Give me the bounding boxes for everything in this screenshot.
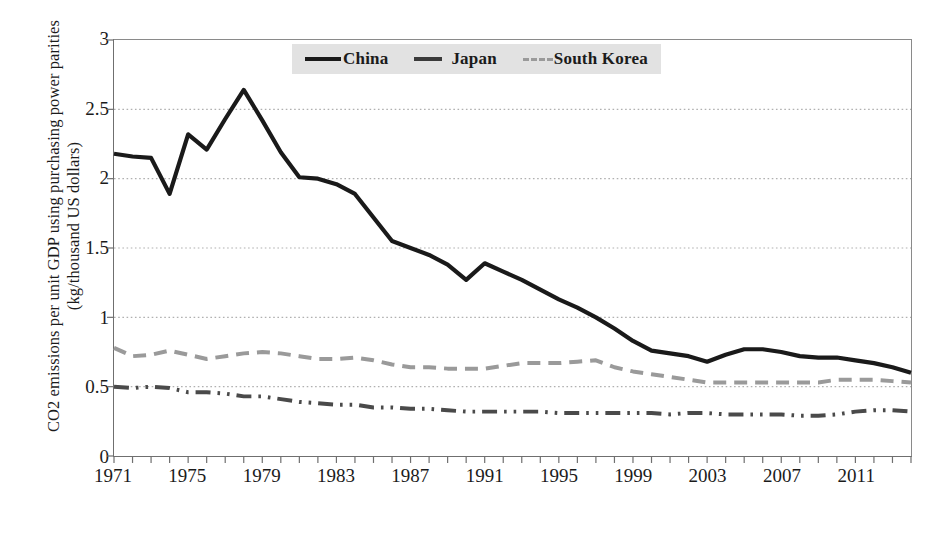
x-axis-tick-labels: 1971197519791983198719911995199920032007… [113,466,912,496]
legend-swatch-japan-icon [414,57,442,61]
legend-item-japan: Japan [414,49,496,69]
legend-swatch-china-icon [305,57,341,61]
data-series-layer [114,40,911,456]
legend-label-china: China [343,49,388,69]
y-tick-label: 2 [63,168,109,187]
series-line-china [114,90,911,373]
y-tick-label: 0 [63,447,109,466]
y-tick-label: 3 [63,29,109,48]
legend-label-japan: Japan [451,49,496,69]
y-tick-label: 1 [63,308,109,327]
y-tick-label: 1.5 [63,238,109,257]
legend-label-south-korea: South Korea [554,49,648,69]
y-axis-tick-labels: 00.511.522.53 [55,39,109,457]
plot-area [113,39,912,457]
y-tick-label: 0.5 [63,377,109,396]
y-axis-label-container: CO2 emissions per unit GDP using purchas… [0,0,56,470]
legend-swatch-south-korea-icon [523,58,553,61]
chart-legend: China Japan South Korea [292,44,661,74]
chart-figure: CO2 emissions per unit GDP using purchas… [0,0,943,540]
y-tick-label: 2.5 [63,99,109,118]
series-line-japan [114,387,911,416]
legend-item-south-korea: South Korea [523,49,648,69]
x-tick-label: 2011 [811,466,901,486]
legend-item-china: China [305,49,388,69]
